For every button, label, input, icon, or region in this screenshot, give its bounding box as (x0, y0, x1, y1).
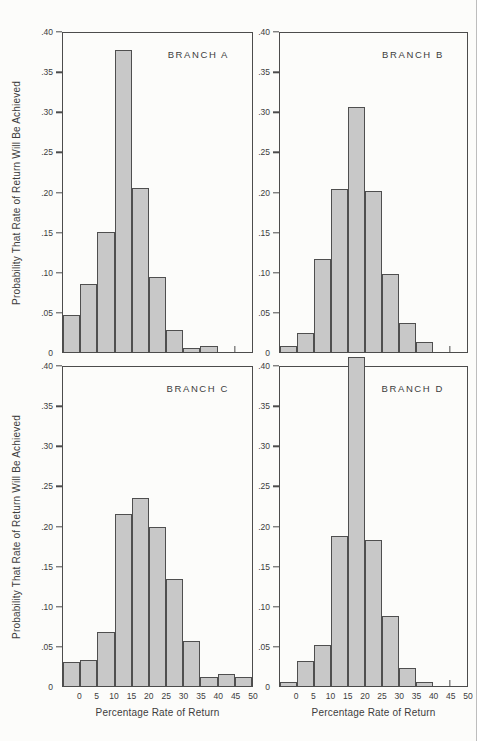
x-axis-tick-label: 30 (395, 691, 404, 701)
y-axis-tick-label: .40 (258, 361, 270, 371)
y-axis-tick-mark (56, 405, 62, 406)
y-axis-tick-mark (273, 566, 279, 567)
y-axis-tick-label: .05 (41, 308, 53, 318)
y-axis-tick-mark (273, 365, 279, 366)
y-axis-tick-label: .15 (41, 227, 53, 237)
y-axis-tick-mark (273, 405, 279, 406)
histogram-bar (80, 660, 97, 686)
histogram-bar (183, 348, 200, 352)
figure: BRANCH A Probability That Rate of Return… (0, 0, 477, 741)
y-axis-tick-mark (56, 526, 62, 527)
y-axis-tick-mark (273, 232, 279, 233)
y-axis-tick-label: .25 (258, 147, 270, 157)
y-axis-tick-label: .10 (258, 602, 270, 612)
y-axis-tick-label: .35 (258, 401, 270, 411)
plot-area (279, 366, 468, 687)
histogram-bar (183, 641, 200, 686)
x-axis-tick-label: 45 (231, 691, 240, 701)
y-axis-tick-mark (56, 31, 62, 32)
y-axis-tick-mark (273, 312, 279, 313)
y-axis-tick-label: .05 (41, 642, 53, 652)
histogram-bar (297, 661, 314, 686)
histogram-bar (416, 342, 433, 352)
histogram-bar (399, 668, 416, 686)
y-axis-tick-mark (56, 646, 62, 647)
histogram-bar (132, 498, 149, 686)
histogram-bar (200, 677, 217, 686)
y-axis-tick-label: 0 (48, 682, 53, 692)
y-axis-tick-label: .30 (258, 441, 270, 451)
histogram-bar (80, 284, 97, 352)
x-axis-tick-label: 40 (429, 691, 438, 701)
y-axis-tick-mark (56, 446, 62, 447)
y-axis-tick-mark (273, 192, 279, 193)
branch-a-label: BRANCH A (168, 49, 229, 60)
y-axis-tick-label: .05 (258, 642, 270, 652)
y-axis-tick-label: .15 (258, 561, 270, 571)
y-axis-tick-mark (273, 526, 279, 527)
histogram-bar (166, 330, 183, 352)
x-axis-tick-label: 20 (144, 691, 153, 701)
y-axis-tick-label: .10 (258, 268, 270, 278)
histogram-bar (200, 346, 217, 352)
branch-d-label: BRANCH D (382, 383, 444, 394)
x-axis-tick-label: 15 (343, 691, 352, 701)
y-axis-tick-mark (56, 112, 62, 113)
x-axis-tick-mark (449, 680, 450, 686)
x-axis-tick-label: 0 (77, 691, 82, 701)
histogram-bar (331, 189, 348, 352)
y-axis-tick-mark (56, 232, 62, 233)
histogram-bar (416, 682, 433, 686)
y-axis-tick-mark (273, 446, 279, 447)
y-axis-tick-label: .10 (41, 602, 53, 612)
y-axis-tick-label: .20 (258, 521, 270, 531)
y-axis-tick-mark (273, 646, 279, 647)
y-axis-tick-mark (273, 152, 279, 153)
y-axis-tick-mark (56, 152, 62, 153)
histogram-bar (382, 616, 399, 686)
y-axis-title: Probability That Rate of Return Will Be … (11, 362, 22, 692)
y-axis-tick-label: .15 (258, 227, 270, 237)
x-axis-tick-mark (234, 346, 235, 352)
branch-b-chart: BRANCH B .40.35.30.25.20.15.10.050 (279, 32, 468, 353)
y-axis-tick-mark (56, 606, 62, 607)
histogram-bar (280, 346, 297, 352)
y-axis-tick-label: .10 (41, 268, 53, 278)
branch-c-chart: BRANCH C Probability That Rate of Return… (62, 366, 253, 687)
x-axis-tick-label: 10 (326, 691, 335, 701)
branch-c-label: BRANCH C (167, 383, 229, 394)
y-axis-tick-label: .40 (41, 361, 53, 371)
y-axis-tick-mark (56, 566, 62, 567)
x-axis-tick-label: 35 (412, 691, 421, 701)
y-axis-tick-mark (273, 606, 279, 607)
y-axis-tick-mark (273, 486, 279, 487)
y-axis-tick-label: .30 (41, 441, 53, 451)
x-axis-tick-label: 50 (463, 691, 472, 701)
histogram-bar (63, 315, 80, 352)
branch-b-label: BRANCH B (382, 49, 444, 60)
x-axis-tick-label: 5 (311, 691, 316, 701)
y-axis-tick-label: .05 (258, 308, 270, 318)
histogram-bar (132, 188, 149, 352)
y-axis-tick-label: .15 (41, 561, 53, 571)
histogram-bar (280, 682, 297, 686)
y-axis-tick-mark (273, 31, 279, 32)
x-axis-tick-label: 35 (196, 691, 205, 701)
histogram-bar (399, 323, 416, 353)
y-axis-title: Probability That Rate of Return Will Be … (11, 28, 22, 358)
x-axis-tick-label: 5 (94, 691, 99, 701)
histogram-bar (365, 191, 382, 352)
y-axis-tick-label: .35 (41, 401, 53, 411)
y-axis-tick-label: .30 (41, 107, 53, 117)
x-axis-title: Percentage Rate of Return (279, 707, 468, 718)
plot-area (62, 366, 253, 687)
y-axis-tick-mark (56, 312, 62, 313)
x-axis-tick-label: 45 (446, 691, 455, 701)
histogram-bar (235, 677, 252, 686)
y-axis-tick-label: 0 (265, 348, 270, 358)
x-axis-tick-label: 25 (377, 691, 386, 701)
y-axis-tick-mark (56, 71, 62, 72)
y-axis-tick-mark (56, 365, 62, 366)
y-axis-tick-label: .20 (41, 187, 53, 197)
x-axis-tick-label: 15 (127, 691, 136, 701)
